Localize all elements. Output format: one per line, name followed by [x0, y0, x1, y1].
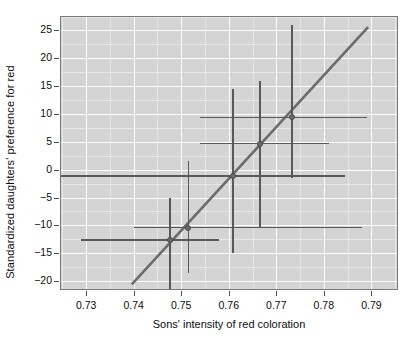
error-bar-horizontal — [200, 117, 366, 119]
error-bar-vertical — [259, 81, 261, 229]
y-axis-tick-label: −5 — [12, 191, 52, 203]
x-axis-tick-label: 0.76 — [209, 299, 249, 311]
x-axis-tick-label: 0.73 — [66, 299, 106, 311]
error-bar-horizontal — [200, 143, 328, 145]
y-axis-tick — [54, 225, 59, 226]
x-axis-tick-label: 0.74 — [114, 299, 154, 311]
x-axis-label: Sons' intensity of red coloration — [60, 318, 398, 332]
y-axis-tick-label: 20 — [12, 51, 52, 63]
x-axis-tick — [181, 291, 182, 296]
scatter-plot-figure: Standardized daughters' preference for r… — [0, 0, 420, 344]
y-axis-tick-label: 10 — [12, 107, 52, 119]
y-axis-tick-label: −10 — [12, 218, 52, 230]
x-axis-tick — [324, 291, 325, 296]
x-axis-tick-label: 0.79 — [351, 299, 391, 311]
y-axis-tick-label: 25 — [12, 23, 52, 35]
x-axis-tick — [134, 291, 135, 296]
x-axis-tick — [276, 291, 277, 296]
y-axis-tick — [54, 86, 59, 87]
error-bar-vertical — [188, 161, 190, 272]
y-axis-tick — [54, 198, 59, 199]
y-axis-tick — [54, 58, 59, 59]
y-axis-tick-label: 15 — [12, 79, 52, 91]
data-point — [185, 225, 191, 231]
y-axis-tick-label: −15 — [12, 246, 52, 258]
regression-line — [60, 16, 398, 290]
y-axis-tick — [54, 170, 59, 171]
error-bar-vertical — [291, 25, 293, 178]
data-point — [257, 141, 263, 147]
x-axis-tick-label: 0.78 — [304, 299, 344, 311]
x-axis-tick-label: 0.75 — [161, 299, 201, 311]
plot-panel — [60, 16, 398, 290]
error-bar-vertical — [169, 198, 171, 290]
error-bar-horizontal — [60, 175, 345, 177]
x-axis-tick — [371, 291, 372, 296]
error-bar-horizontal — [134, 227, 362, 229]
x-axis-tick — [86, 291, 87, 296]
error-bar-horizontal — [81, 239, 219, 241]
y-axis-tick — [54, 114, 59, 115]
y-axis-tick — [54, 142, 59, 143]
y-axis-tick-label: 0 — [12, 163, 52, 175]
y-axis-tick-label: −20 — [12, 274, 52, 286]
y-axis-tick — [54, 253, 59, 254]
y-axis-tick-label: 5 — [12, 135, 52, 147]
y-axis-tick — [54, 30, 59, 31]
error-bar-vertical — [232, 89, 234, 253]
y-axis-tick — [54, 281, 59, 282]
x-axis-tick-label: 0.77 — [256, 299, 296, 311]
data-point — [230, 173, 236, 179]
x-axis-tick — [229, 291, 230, 296]
